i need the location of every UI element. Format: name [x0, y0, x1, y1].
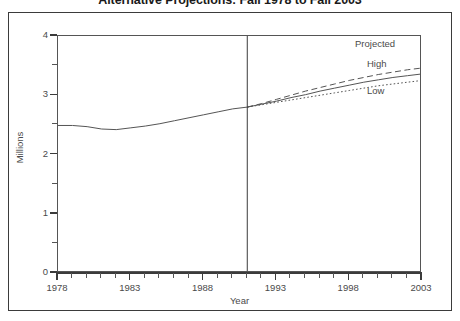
- annotation-projected: Projected: [355, 38, 395, 49]
- x-axis-minor-tick: [377, 273, 378, 278]
- x-axis-tick-label: 1993: [255, 282, 295, 293]
- chart-title: Alternative Projections: Fall 1978 to Fa…: [0, 0, 460, 9]
- y-axis-minor-tick: [52, 242, 57, 243]
- x-axis-minor-tick: [158, 273, 159, 278]
- y-axis-tick: [50, 34, 57, 36]
- annotation-high: High: [367, 58, 387, 69]
- x-axis-tick-label: 1998: [328, 282, 368, 293]
- annotation-low: Low: [367, 85, 384, 96]
- plot-area: [57, 35, 421, 272]
- x-axis-minor-tick: [71, 273, 72, 278]
- y-axis-title: Millions: [14, 113, 25, 183]
- y-axis-minor-tick: [52, 64, 57, 65]
- series-line-high: [247, 68, 421, 107]
- y-axis-tick-label: 2: [2, 149, 48, 158]
- x-axis-tick-label: 1983: [110, 282, 150, 293]
- y-axis-tick-label: 3: [2, 89, 48, 98]
- x-axis-tick-label: 1978: [37, 282, 77, 293]
- x-axis-minor-tick: [260, 273, 261, 278]
- y-axis-tick: [50, 153, 57, 155]
- y-axis-minor-tick: [52, 183, 57, 184]
- x-axis-minor-tick: [246, 273, 247, 278]
- x-axis-minor-tick: [173, 273, 174, 278]
- x-axis-minor-tick: [115, 273, 116, 278]
- x-axis-spine: [57, 272, 422, 274]
- x-axis-minor-tick: [217, 273, 218, 278]
- x-axis-tick-label: 1988: [183, 282, 223, 293]
- x-axis-tick: [420, 273, 421, 280]
- x-axis-minor-tick: [289, 273, 290, 278]
- y-axis-tick-label: 4: [2, 30, 48, 39]
- x-axis-minor-tick: [333, 273, 334, 278]
- y-axis-tick: [50, 94, 57, 96]
- x-axis-minor-tick: [304, 273, 305, 278]
- x-axis-tick-label: 2003: [401, 282, 441, 293]
- x-axis-tick: [202, 273, 203, 280]
- x-axis-minor-tick: [391, 273, 392, 278]
- x-axis-minor-tick: [100, 273, 101, 278]
- x-axis-tick: [275, 273, 276, 280]
- x-axis-tick: [348, 273, 349, 280]
- y-axis-tick-label: 0: [2, 267, 48, 276]
- series-line-actual: [58, 107, 247, 130]
- x-axis-minor-tick: [231, 273, 232, 278]
- chart-figure: Alternative Projections: Fall 1978 to Fa…: [0, 0, 460, 321]
- x-axis-minor-tick: [188, 273, 189, 278]
- plot-lines: [58, 36, 421, 272]
- y-axis-tick: [50, 212, 57, 214]
- x-axis-tick: [129, 273, 130, 280]
- x-axis-minor-tick: [319, 273, 320, 278]
- x-axis-minor-tick: [144, 273, 145, 278]
- x-axis-tick: [56, 273, 57, 280]
- series-line-middle: [247, 74, 421, 107]
- x-axis-minor-tick: [362, 273, 363, 278]
- y-axis-tick-label: 1: [2, 208, 48, 217]
- x-axis-minor-tick: [86, 273, 87, 278]
- x-axis-minor-tick: [406, 273, 407, 278]
- y-axis-minor-tick: [52, 123, 57, 124]
- x-axis-title: Year: [57, 295, 422, 306]
